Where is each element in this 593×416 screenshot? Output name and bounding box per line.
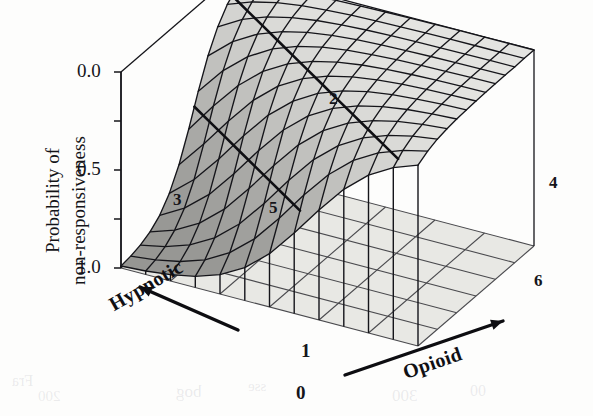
surface-label-1: 1: [301, 341, 311, 360]
vertical-axis-title-line1: Probability of: [42, 148, 64, 253]
vertical-tick-0-5: 0.5: [77, 159, 101, 178]
surface-label-2: 2: [329, 90, 338, 107]
vertical-tick-1-0: 1.0: [77, 257, 101, 276]
vertical-tick-0-0: 0.0: [77, 61, 101, 80]
vertical-axis: [114, 72, 121, 268]
surface-label-3: 3: [173, 191, 182, 208]
surface-label-0: 0: [296, 383, 306, 402]
figure-3d-surface-plot: Probability of non-responsiveness Hypnot…: [0, 0, 593, 416]
surface-label-6: 6: [534, 272, 543, 289]
surface-label-4: 4: [549, 174, 558, 191]
surface-label-5: 5: [269, 199, 278, 216]
